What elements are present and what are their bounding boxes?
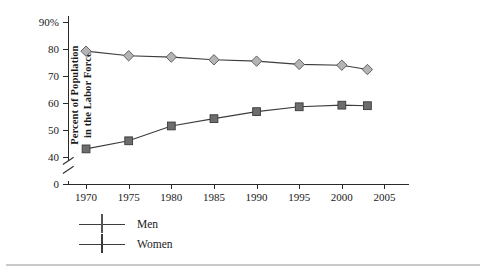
x-tick-label-1985: 1985	[203, 192, 225, 203]
x-tick-label-1990: 1990	[246, 192, 268, 203]
y-tick-label-70: 70	[48, 71, 59, 82]
labor-force-participation-chart: Percent of Population in the Labor Force…	[0, 0, 486, 277]
y-tick-label-60: 60	[48, 98, 59, 109]
data-point-women-1980	[167, 122, 175, 130]
y-tick-label-40: 40	[48, 152, 59, 163]
data-point-men-1990	[251, 56, 261, 66]
data-point-men-1995	[294, 59, 304, 69]
plot-area: 405060708090%0 1970197519801985199019952…	[68, 16, 408, 185]
data-point-women-2003	[364, 102, 372, 110]
x-tick-label-2000: 2000	[331, 192, 353, 203]
y-tick-label-80: 80	[48, 44, 59, 55]
x-tick-label-1995: 1995	[288, 192, 310, 203]
data-point-men-2003	[362, 64, 372, 74]
data-point-women-2000	[338, 101, 346, 109]
data-point-women-1970	[82, 145, 90, 153]
data-point-men-1970	[81, 46, 91, 56]
data-point-men-1980	[166, 52, 176, 62]
data-point-women-1975	[125, 137, 133, 145]
legend-item-men: Men	[79, 214, 172, 234]
series-plot	[68, 16, 409, 185]
x-tick-label-1975: 1975	[118, 192, 140, 203]
data-point-women-1985	[210, 115, 218, 123]
chart-legend: Men Women	[79, 214, 172, 254]
legend-label-men: Men	[137, 218, 158, 230]
data-point-women-1995	[295, 103, 303, 111]
y-tick-label-0: 0	[54, 179, 60, 190]
x-tick-label-1980: 1980	[160, 192, 182, 203]
data-point-men-1975	[123, 51, 133, 61]
y-tick-label-90: 90%	[39, 17, 59, 28]
y-tick-label-50: 50	[48, 125, 59, 136]
x-tick-label-2005: 2005	[373, 192, 395, 203]
square-marker-icon	[79, 236, 125, 252]
data-point-men-1985	[209, 55, 219, 65]
data-point-men-2000	[337, 60, 347, 70]
x-tick-label-1970: 1970	[75, 192, 97, 203]
legend-label-women: Women	[137, 238, 172, 250]
legend-item-women: Women	[79, 234, 172, 254]
footer-divider	[6, 264, 480, 266]
diamond-marker-icon	[79, 216, 125, 232]
data-point-women-1990	[253, 108, 261, 116]
